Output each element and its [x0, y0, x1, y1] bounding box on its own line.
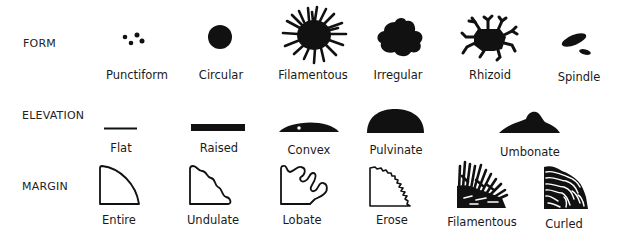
- form-label-rhizoid: Rhizoid: [469, 68, 511, 82]
- margin-label-filamentous: Filamentous: [447, 215, 517, 229]
- filamentous-margin-icon: [456, 160, 508, 210]
- curled-margin-icon: [542, 163, 590, 211]
- form-label-filamentous: Filamentous: [278, 68, 348, 82]
- pulvinate-elevation-icon: [366, 108, 426, 135]
- lobate-margin-icon: [279, 163, 331, 207]
- elevation-label-convex: Convex: [288, 143, 331, 157]
- erose-margin-icon: [368, 164, 414, 208]
- elevation-label-flat: Flat: [110, 141, 131, 155]
- umbonate-elevation-icon: [498, 110, 562, 135]
- row-label-margin: MARGIN: [22, 180, 68, 193]
- rhizoid-shape-icon: [460, 15, 522, 61]
- form-label-irregular: Irregular: [373, 68, 422, 82]
- undulate-margin-icon: [188, 163, 234, 207]
- margin-label-lobate: Lobate: [282, 213, 321, 227]
- form-label-circular: Circular: [199, 68, 243, 82]
- elevation-label-umbonate: Umbonate: [500, 145, 560, 159]
- circular-shape-icon: [207, 24, 233, 50]
- row-label-elevation: ELEVATION: [22, 109, 84, 122]
- filamentous-form-shape-icon: [282, 6, 348, 64]
- spindle-shape-icon: [558, 30, 598, 60]
- margin-label-erose: Erose: [376, 213, 408, 227]
- punctiform-shape-icon: [118, 30, 158, 50]
- form-label-spindle: Spindle: [558, 70, 601, 84]
- form-label-punctiform: Punctiform: [106, 68, 168, 82]
- raised-elevation-icon: [191, 124, 247, 132]
- row-label-form: FORM: [23, 37, 56, 50]
- margin-label-undulate: Undulate: [187, 213, 239, 227]
- elevation-label-raised: Raised: [200, 141, 238, 155]
- margin-label-curled: Curled: [545, 217, 583, 231]
- elevation-label-pulvinate: Pulvinate: [369, 143, 422, 157]
- entire-margin-icon: [98, 164, 142, 206]
- convex-elevation-icon: [279, 118, 341, 134]
- irregular-shape-icon: [375, 16, 431, 58]
- margin-label-entire: Entire: [102, 213, 136, 227]
- flat-elevation-icon: [104, 127, 138, 131]
